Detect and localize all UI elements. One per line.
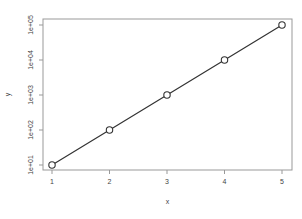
line-chart: 12345 1e+011e+021e+031e+041e+05 x y <box>0 0 302 219</box>
x-tick-label: 1 <box>50 178 54 185</box>
y-axis: 1e+011e+021e+031e+041e+05 <box>27 15 43 175</box>
x-tick-label: 4 <box>223 178 227 185</box>
x-tick-label: 5 <box>280 178 284 185</box>
data-points <box>49 22 285 168</box>
x-axis-label: x <box>166 198 170 205</box>
x-tick-label: 3 <box>165 178 169 185</box>
y-tick-label: 1e+01 <box>27 155 34 175</box>
data-point-marker <box>221 57 227 63</box>
data-point-marker <box>106 127 112 133</box>
data-point-marker <box>279 22 285 28</box>
y-tick-label: 1e+05 <box>27 15 34 35</box>
y-tick-label: 1e+03 <box>27 85 34 105</box>
y-tick-label: 1e+02 <box>27 120 34 140</box>
data-point-marker <box>49 162 55 168</box>
x-tick-label: 2 <box>108 178 112 185</box>
data-point-marker <box>164 92 170 98</box>
x-axis: 12345 <box>50 170 284 185</box>
y-tick-label: 1e+04 <box>27 50 34 70</box>
y-axis-label: y <box>4 92 12 96</box>
